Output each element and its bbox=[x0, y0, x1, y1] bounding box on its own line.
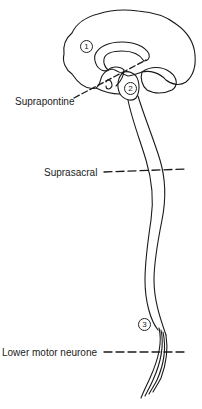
suprasacral-level-line bbox=[104, 169, 186, 172]
label-suprasacral: Suprasacral bbox=[44, 167, 97, 178]
marker-3: 3 bbox=[138, 318, 151, 331]
corpus-callosum bbox=[95, 42, 150, 71]
spinal-cord-left bbox=[128, 100, 158, 330]
label-suprapontine: Suprapontine bbox=[15, 96, 75, 107]
marker-1: 1 bbox=[80, 40, 93, 53]
marker-2: 2 bbox=[124, 82, 137, 95]
cauda-fibre-1 bbox=[141, 328, 160, 398]
neuro-lesion-diagram: 1 2 3 Suprapontine Suprasacral Lower mot… bbox=[0, 0, 202, 409]
label-lower-motor-neurone: Lower motor neurone bbox=[2, 347, 97, 358]
